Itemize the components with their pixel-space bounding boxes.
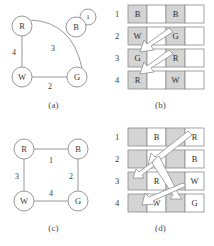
- grid-cell-label: B: [173, 9, 179, 19]
- row-number-3: 3: [115, 53, 119, 63]
- node-label-w: W: [18, 72, 26, 82]
- grid-cell[interactable]: [185, 49, 204, 67]
- grid-cell[interactable]: [185, 5, 204, 23]
- node-label-w: W: [20, 196, 28, 206]
- row-number-3: 3: [115, 176, 119, 186]
- grid-cell-label: B: [192, 154, 198, 164]
- row-number-2: 2: [115, 31, 119, 41]
- grid-cell-label: B: [135, 9, 141, 19]
- grid-cell-label: R: [154, 176, 160, 186]
- edge-weight-w-g: 2: [48, 82, 52, 91]
- grid-cell-label: W: [133, 31, 141, 41]
- caption-a: (a): [0, 100, 107, 110]
- grid-cell[interactable]: [185, 27, 204, 45]
- grid-cell-label: W: [171, 75, 179, 85]
- grid-cell-label: G: [134, 53, 140, 63]
- panel-b-grid: 1 B B 2 W G 3 G R 4: [107, 0, 214, 100]
- row-number-2: 2: [115, 154, 119, 164]
- node-label-g: G: [74, 72, 80, 82]
- grid-cell-label: B: [154, 132, 160, 142]
- grid-cell[interactable]: [128, 150, 147, 168]
- grid-cell-label: W: [190, 176, 198, 186]
- node-label-g: G: [75, 196, 81, 206]
- grid-cell-label: R: [173, 53, 179, 63]
- edge-weight-r-w: 4: [12, 48, 16, 57]
- node-label-b: B: [75, 144, 81, 154]
- badge-label-1: 1: [86, 13, 90, 21]
- row-number-4: 4: [115, 198, 120, 208]
- panel-c-graph: 1 3 2 4 R B W G (c): [0, 123, 107, 223]
- row-number-1: 1: [115, 9, 119, 19]
- grid-cell[interactable]: [147, 5, 166, 23]
- node-label-b: B: [73, 22, 79, 32]
- node-label-r: R: [19, 21, 25, 31]
- panel-a-graph: 3 4 2 1 R B W G (a): [0, 0, 107, 100]
- panel-d-grid: 1 B R 2 G B 3 R W 4: [107, 123, 214, 223]
- grid-cell-label: R: [192, 132, 198, 142]
- node-label-r: R: [21, 144, 27, 154]
- grid-cell-label: G: [172, 31, 178, 41]
- grid-cell[interactable]: [128, 128, 147, 146]
- edge-weight-r-w: 3: [15, 172, 19, 181]
- edge-weight-r-b: 1: [49, 156, 53, 165]
- caption-b: (b): [107, 100, 214, 110]
- row-number-1: 1: [115, 132, 119, 142]
- grid-cell-label: G: [191, 198, 197, 208]
- caption-d: (d): [107, 223, 214, 233]
- grid-cell[interactable]: [147, 71, 166, 89]
- edge-weight-r-g: 3: [51, 44, 55, 53]
- grid-cell-label: R: [135, 75, 141, 85]
- row-number-4: 4: [115, 75, 120, 85]
- grid-cell[interactable]: [185, 71, 204, 89]
- figure-container: 3 4 2 1 R B W G (a) 1 B B: [0, 0, 214, 246]
- edge-weight-w-g: 4: [49, 189, 53, 198]
- caption-c: (c): [0, 223, 107, 233]
- edge-weight-b-g: 2: [69, 172, 73, 181]
